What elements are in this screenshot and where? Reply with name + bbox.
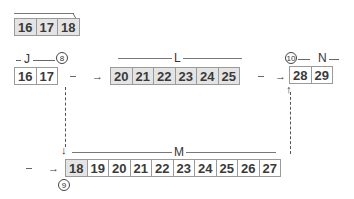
dashed-down-connector (65, 87, 66, 147)
l-row: 20 21 22 23 24 25 (110, 67, 240, 85)
arrow-right-icon: → (48, 163, 59, 173)
n-line-left (298, 59, 310, 60)
cell: 21 (132, 67, 155, 85)
j-row: 16 17 (14, 67, 58, 85)
cell: 20 (110, 67, 133, 85)
j-line-left (16, 60, 21, 61)
cell: 17 (36, 67, 59, 85)
cell: 22 (151, 159, 174, 177)
cell: 17 (36, 18, 59, 36)
j-line-right (33, 60, 55, 61)
cell: 27 (259, 159, 282, 177)
j-label: J (24, 52, 30, 66)
arrow-up-icon: ↑ (286, 84, 292, 94)
cell: 25 (218, 67, 241, 85)
cell: 25 (216, 159, 239, 177)
marker-10: 10 (285, 52, 297, 64)
l-label: L (172, 51, 183, 65)
cell: 26 (237, 159, 260, 177)
m-label: M (172, 145, 186, 159)
n-line-right (329, 59, 339, 60)
top-bracket (14, 13, 74, 14)
cell: 23 (173, 159, 196, 177)
top-row: 16 17 18 (14, 18, 80, 36)
cell: 24 (194, 159, 217, 177)
cell: 18 (57, 18, 80, 36)
cell: 19 (87, 159, 110, 177)
cell: 16 (14, 67, 37, 85)
dash-j-l-1 (70, 76, 76, 77)
arrow-down-icon: ↓ (61, 145, 67, 155)
cell: 28 (289, 66, 312, 84)
marker-9: 9 (58, 179, 70, 191)
arrow-right-icon: → (275, 71, 286, 81)
cell: 18 (65, 159, 88, 177)
n-label: N (318, 51, 327, 65)
cell: 23 (175, 67, 198, 85)
m-row: 18 19 20 21 22 23 24 25 26 27 (65, 159, 281, 177)
cell: 24 (196, 67, 219, 85)
n-row: 28 29 (289, 66, 333, 84)
dashed-up-connector (290, 92, 291, 154)
marker-8: 8 (56, 52, 68, 64)
cell: 20 (108, 159, 131, 177)
arrow-right-icon: → (92, 71, 103, 81)
cell: 29 (311, 66, 334, 84)
dash-l-n (258, 76, 264, 77)
cell: 16 (14, 18, 37, 36)
dash-m-left (26, 168, 32, 169)
cell: 21 (130, 159, 153, 177)
cell: 22 (153, 67, 176, 85)
